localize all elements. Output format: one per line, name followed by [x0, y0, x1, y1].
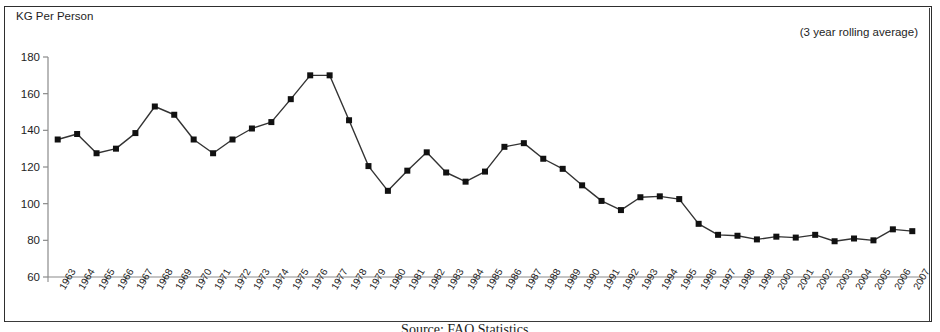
y-axis-tick-label: 120 — [6, 161, 40, 173]
chart-figure: KG Per Person (3 year rolling average) 6… — [0, 0, 940, 332]
y-axis-tick-label: 80 — [6, 234, 40, 246]
y-axis-tick-label: 60 — [6, 271, 40, 283]
figure-caption: Source: FAO Statistics... — [0, 322, 940, 332]
y-axis-tick-label: 100 — [6, 198, 40, 210]
y-axis-tick-label: 180 — [6, 51, 40, 63]
plot-area: 6080100120140160180196319641965196619671… — [0, 0, 940, 332]
y-axis-tick-label: 140 — [6, 124, 40, 136]
y-axis-tick-label: 160 — [6, 88, 40, 100]
